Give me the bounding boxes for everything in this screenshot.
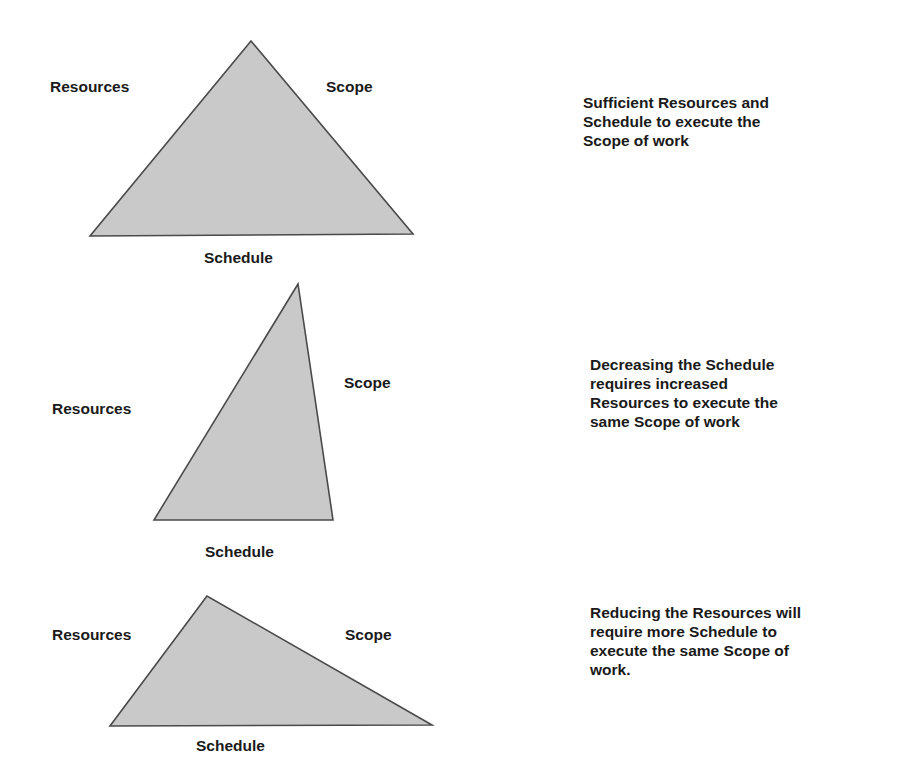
triangle-balanced [90,41,413,236]
triangle-reduced-resources [110,596,432,726]
label-scope: Scope [326,78,373,96]
description-line: requires increased [590,374,910,393]
description-line: Scope of work [583,131,903,150]
description-reduced-schedule: Decreasing the Schedule requires increas… [590,355,910,431]
description-balanced: Sufficient Resources and Schedule to exe… [583,93,903,150]
label-scope: Scope [345,626,392,644]
label-resources: Resources [52,400,131,418]
description-line: same Scope of work [590,412,910,431]
description-line: Decreasing the Schedule [590,355,910,374]
description-line: Sufficient Resources and [583,93,903,112]
label-schedule: Schedule [205,543,274,561]
label-scope: Scope [344,374,391,392]
description-line: Schedule to execute the [583,112,903,131]
description-line: Reducing the Resources will [590,603,910,622]
description-line: require more Schedule to [590,622,910,641]
triangle-reduced-schedule [154,284,333,520]
description-reduced-resources: Reducing the Resources will require more… [590,603,910,679]
label-resources: Resources [50,78,129,96]
description-line: execute the same Scope of [590,641,910,660]
description-line: work. [590,660,910,679]
label-resources: Resources [52,626,131,644]
label-schedule: Schedule [204,249,273,267]
label-schedule: Schedule [196,737,265,755]
description-line: Resources to execute the [590,393,910,412]
